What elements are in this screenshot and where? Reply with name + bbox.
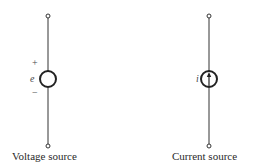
minus-sign: − xyxy=(32,88,38,98)
voltage-variable-e: e xyxy=(30,74,34,84)
circuit-diagram xyxy=(0,0,255,166)
current-source-symbol xyxy=(201,14,217,148)
voltage-bottom-terminal-icon xyxy=(46,144,50,148)
current-top-terminal-icon xyxy=(207,14,211,18)
voltage-source-label: Voltage source xyxy=(12,150,77,162)
current-bottom-terminal-icon xyxy=(207,144,211,148)
voltage-source-circle-icon xyxy=(40,71,56,87)
current-variable-i: i xyxy=(196,74,199,84)
plus-sign: + xyxy=(32,58,38,68)
voltage-source-symbol xyxy=(40,14,56,148)
current-source-label: Current source xyxy=(172,150,237,162)
voltage-top-terminal-icon xyxy=(46,14,50,18)
